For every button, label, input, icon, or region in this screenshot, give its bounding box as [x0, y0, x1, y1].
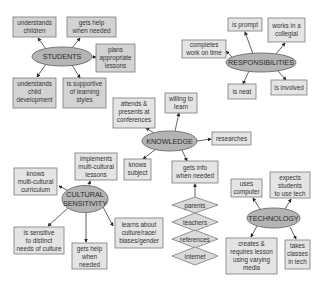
svg-text:multi-cultural: multi-cultural	[78, 163, 114, 170]
svg-text:plans: plans	[108, 46, 123, 54]
node-gets-info-when-needed: gets info when needed	[172, 161, 218, 183]
svg-text:to distinct: to distinct	[26, 237, 53, 244]
svg-text:researches: researches	[216, 135, 247, 142]
node-plans-appropriate-lessons: plans appropriate lessons	[96, 44, 135, 72]
svg-text:students: students	[278, 182, 302, 189]
svg-text:appropriate: appropriate	[100, 54, 132, 62]
svg-text:gets info: gets info	[183, 164, 207, 172]
hub-technology: TECHNOLOGY	[247, 208, 300, 228]
node-is-neat: is neat	[228, 84, 256, 99]
svg-text:creates &: creates &	[238, 240, 265, 247]
svg-text:attends &: attends &	[121, 100, 148, 107]
svg-text:willing to: willing to	[168, 95, 194, 103]
svg-text:culture/race/: culture/race/	[122, 229, 157, 236]
svg-text:development: development	[16, 96, 52, 104]
svg-text:takes: takes	[290, 242, 305, 249]
svg-text:using varying: using varying	[233, 256, 271, 264]
hub-cultural-sensitivity: CULTURAL SENSITIVITY	[62, 186, 108, 213]
node-knows-subject: knows subject	[124, 159, 151, 180]
svg-text:conferences: conferences	[117, 116, 151, 123]
node-understands-child-development: understands child development	[13, 78, 56, 108]
svg-text:understands: understands	[17, 80, 52, 87]
svg-text:needs of culture: needs of culture	[17, 245, 62, 252]
concept-map: understands children gets help when need…	[0, 0, 320, 286]
node-understands-children: understands children	[13, 17, 56, 37]
svg-text:in tech: in tech	[288, 258, 307, 265]
svg-text:is prompt: is prompt	[232, 21, 258, 29]
svg-text:uses: uses	[240, 180, 253, 187]
source-teachers: teachers	[172, 213, 218, 231]
responsibilities-cluster: is prompt works in a collegial completes…	[182, 18, 307, 99]
technology-cluster: uses computer expects students to use te…	[226, 172, 310, 274]
svg-text:media: media	[243, 264, 261, 271]
svg-text:requires lesson: requires lesson	[230, 248, 273, 256]
svg-text:completes: completes	[190, 41, 219, 49]
svg-text:parents: parents	[184, 202, 205, 210]
svg-text:understands: understands	[17, 19, 52, 26]
svg-text:works in a: works in a	[271, 22, 301, 29]
svg-text:STUDENTS: STUDENTS	[43, 52, 82, 61]
svg-text:learn: learn	[174, 103, 188, 110]
svg-text:TECHNOLOGY: TECHNOLOGY	[248, 214, 299, 223]
node-takes-classes-in-tech: takes classes in tech	[285, 240, 310, 269]
svg-text:KNOWLEDGE: KNOWLEDGE	[146, 137, 193, 146]
svg-text:is sensitive: is sensitive	[24, 229, 55, 236]
hub-students: STUDENTS	[32, 47, 92, 66]
node-willing-to-learn: willing to learn	[165, 93, 197, 113]
node-gets-help-when-needed: gets help when needed	[67, 17, 116, 37]
svg-text:gets help: gets help	[77, 245, 103, 253]
source-references: references	[172, 230, 218, 248]
svg-text:implements: implements	[80, 155, 112, 163]
hub-knowledge: KNOWLEDGE	[142, 131, 197, 151]
svg-text:classes: classes	[287, 250, 308, 257]
node-works-in-collegial: works in a collegial	[268, 18, 305, 42]
svg-text:biases/gender: biases/gender	[119, 237, 159, 245]
svg-text:child: child	[28, 88, 41, 95]
svg-text:gets help: gets help	[79, 19, 105, 27]
svg-text:to use tech: to use tech	[275, 190, 306, 197]
svg-text:references: references	[180, 236, 210, 243]
svg-text:is supportive: is supportive	[67, 80, 103, 88]
svg-text:children: children	[23, 27, 46, 34]
svg-text:of learning: of learning	[70, 88, 100, 96]
svg-text:is involved: is involved	[274, 84, 304, 91]
svg-text:needed: needed	[79, 261, 101, 268]
node-gets-help-when-needed-cultural: gets help when needed	[72, 243, 107, 269]
svg-text:presents at: presents at	[118, 108, 149, 116]
svg-text:knows: knows	[129, 161, 147, 168]
svg-text:knows: knows	[27, 170, 45, 177]
svg-text:work on time: work on time	[185, 49, 222, 56]
node-uses-computer: uses computer	[231, 179, 262, 197]
svg-text:teachers: teachers	[183, 219, 207, 226]
node-supportive-of-learning-styles: is supportive of learning styles	[63, 78, 106, 108]
students-cluster: understands children gets help when need…	[13, 17, 135, 108]
node-knows-multicultural-curriculum: knows multi-cultural curriculum	[14, 168, 57, 195]
svg-text:RESPONSIBILITIES: RESPONSIBILITIES	[228, 58, 294, 67]
source-internet: internet	[172, 247, 218, 265]
svg-text:collegial: collegial	[275, 30, 298, 38]
svg-text:internet: internet	[184, 253, 205, 260]
svg-text:subject: subject	[128, 169, 148, 177]
node-expects-students-to-use-tech: expects students to use tech	[270, 172, 310, 198]
svg-text:styles: styles	[76, 96, 92, 104]
svg-text:lessons: lessons	[85, 171, 106, 178]
hub-responsibilities: RESPONSIBILITIES	[226, 53, 296, 72]
svg-text:lessons: lessons	[105, 62, 126, 69]
source-parents: parents	[172, 197, 218, 213]
node-learns-about-culture: learns about culture/race/ biases/gender	[115, 218, 163, 248]
node-implements-multicultural-lessons: implements multi-cultural lessons	[75, 153, 117, 180]
node-creates-requires-lesson-media: creates & requires lesson using varying …	[226, 238, 277, 274]
svg-text:expects: expects	[279, 174, 301, 182]
svg-text:when needed: when needed	[175, 172, 214, 179]
svg-text:when: when	[81, 253, 98, 260]
svg-text:multi-cultural: multi-cultural	[18, 178, 54, 185]
node-sensitive-to-needs-of-culture: is sensitive to distinct needs of cultur…	[14, 227, 64, 254]
node-attends-presents-conferences: attends & presents at conferences	[113, 98, 155, 128]
svg-text:learns about: learns about	[122, 221, 157, 228]
svg-text:SENSITIVITY: SENSITIVITY	[63, 199, 107, 208]
svg-text:computer: computer	[233, 188, 259, 196]
node-is-involved: is involved	[271, 80, 307, 95]
node-researches: researches	[212, 132, 251, 145]
svg-text:when needed: when needed	[72, 27, 111, 34]
node-is-prompt: is prompt	[228, 18, 262, 31]
